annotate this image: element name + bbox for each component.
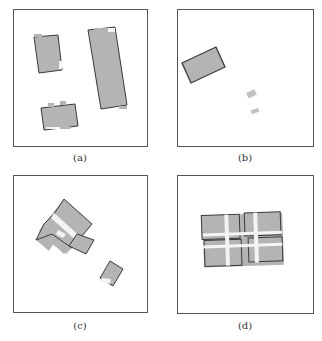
building-footprints-b	[178, 10, 315, 148]
panel-d	[177, 175, 314, 314]
building-a2	[88, 27, 127, 109]
building-c2	[100, 261, 123, 286]
caption-c: (c)	[50, 320, 110, 331]
building-d3	[204, 239, 242, 266]
caption-b: (b)	[215, 152, 275, 163]
panel-c	[13, 175, 148, 313]
panel-b	[177, 9, 314, 147]
caption-d: (d)	[215, 320, 275, 331]
caption-a: (a)	[50, 152, 110, 163]
building-b2	[246, 89, 257, 98]
building-b1	[182, 47, 225, 83]
panel-a	[13, 9, 148, 147]
building-a3	[41, 101, 78, 130]
building-footprints-d	[178, 176, 315, 315]
building-d4	[248, 237, 283, 262]
building-footprints-c	[14, 176, 149, 314]
building-footprints-a	[14, 10, 149, 148]
building-d-grid	[201, 212, 284, 268]
building-b3	[251, 108, 260, 114]
building-c1	[36, 199, 94, 254]
building-a1	[34, 34, 62, 73]
